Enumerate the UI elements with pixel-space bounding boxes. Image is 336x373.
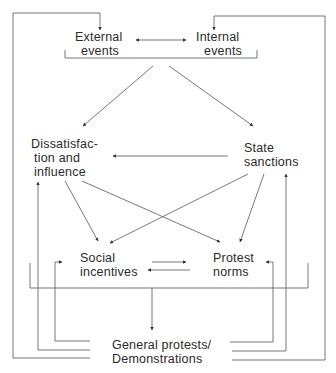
bottom-bracket — [30, 263, 308, 288]
node-label: incentives — [80, 265, 138, 279]
arrow-events-state — [169, 66, 253, 126]
node-external-events: External events — [75, 30, 122, 58]
arrow-state-protest — [240, 174, 264, 242]
node-label: influence — [31, 165, 98, 179]
node-protest-norms: Protest norms — [213, 251, 254, 279]
node-general-protests: General protests/ Demonstrations — [112, 338, 211, 366]
node-label: sanctions — [244, 155, 299, 169]
node-label: Internal — [196, 30, 242, 44]
arrow-state-social — [110, 174, 248, 243]
node-internal-events: Internal events — [196, 30, 242, 58]
node-label: General protests/ — [112, 338, 211, 352]
arrow-dissatisfaction-social — [65, 181, 98, 241]
diagram-connections — [0, 0, 336, 373]
node-label: Social — [80, 251, 138, 265]
node-dissatisfaction: Dissatisfac- tion and influence — [31, 137, 98, 179]
node-social-incentives: Social incentives — [80, 251, 138, 279]
node-label: norms — [213, 265, 254, 279]
arrow-events-dissatisfaction — [83, 66, 153, 126]
node-label: tion and — [31, 151, 98, 165]
node-label: events — [196, 44, 242, 58]
node-label: events — [75, 44, 122, 58]
loop-general-external — [13, 13, 100, 358]
node-label: Dissatisfac- — [31, 137, 98, 151]
node-label: State — [244, 141, 299, 155]
node-label: Protest — [213, 251, 254, 265]
arrow-dissatisfaction-protest — [82, 181, 220, 242]
node-state-sanctions: State sanctions — [244, 141, 299, 169]
loop-general-internal — [214, 16, 325, 360]
node-label: Demonstrations — [112, 352, 211, 366]
node-label: External — [75, 30, 122, 44]
